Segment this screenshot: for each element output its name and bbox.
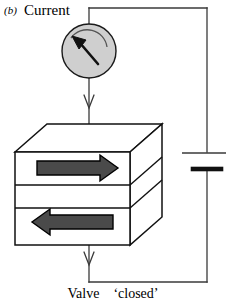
- battery-negative-plate: [191, 167, 223, 171]
- valve-caption-word: Valve: [68, 286, 100, 301]
- figure-canvas: [0, 0, 226, 307]
- current-label: Current: [24, 2, 70, 19]
- battery-cell: [182, 153, 226, 171]
- ammeter: [62, 24, 116, 78]
- spin-valve-figure: (b) Current Valve‘closed’: [0, 0, 226, 307]
- ammeter-body: [62, 24, 116, 78]
- valve-caption-state: ‘closed’: [113, 286, 158, 301]
- panel-letter: (b): [4, 4, 17, 16]
- valve-caption: Valve‘closed’: [0, 286, 226, 302]
- spin-valve-stack: [15, 124, 162, 245]
